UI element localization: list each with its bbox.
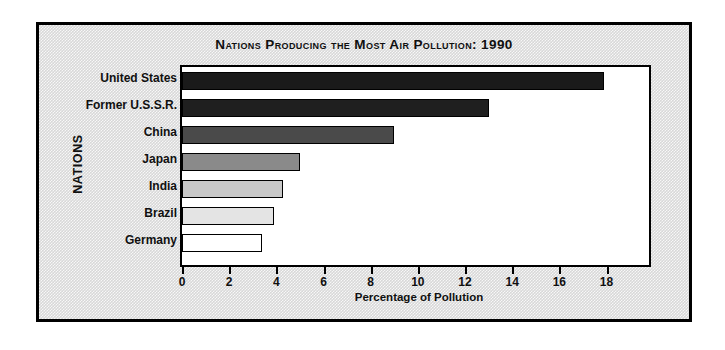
x-axis-tick-label: 2 <box>214 275 244 289</box>
x-axis-tick-label: 18 <box>592 275 622 289</box>
x-axis-tick-label: 16 <box>544 275 574 289</box>
x-axis: 024681012141618 <box>180 267 651 291</box>
bar-row <box>182 94 649 121</box>
bar-row <box>182 67 649 94</box>
x-axis-tick-label: 10 <box>403 275 433 289</box>
chart-title: Nations Producing the Most Air Pollution… <box>39 37 689 52</box>
x-axis-tick-mark <box>276 267 278 274</box>
bar <box>182 153 300 171</box>
x-axis-tick-mark <box>559 267 561 274</box>
category-label: Germany <box>65 227 177 254</box>
bar-row <box>182 229 649 256</box>
chart-figure: Nations Producing the Most Air Pollution… <box>36 22 692 322</box>
x-axis-tick-label: 12 <box>450 275 480 289</box>
x-axis-tick-mark <box>229 267 231 274</box>
category-label: Former U.S.S.R. <box>65 92 177 119</box>
x-axis-tick-label: 6 <box>309 275 339 289</box>
bar-row <box>182 175 649 202</box>
x-axis-tick-mark <box>607 267 609 274</box>
bar-row <box>182 121 649 148</box>
bar <box>182 207 274 225</box>
category-label: Brazil <box>65 200 177 227</box>
x-axis-tick-mark <box>465 267 467 274</box>
x-axis-tick-label: 8 <box>356 275 386 289</box>
category-label: China <box>65 119 177 146</box>
bar <box>182 72 604 90</box>
bar <box>182 99 489 117</box>
x-axis-tick-mark <box>371 267 373 274</box>
x-axis-title: Percentage of Pollution <box>179 291 659 303</box>
x-axis-tick-mark <box>418 267 420 274</box>
bar-row <box>182 202 649 229</box>
x-axis-tick-label: 4 <box>261 275 291 289</box>
bar <box>182 126 394 144</box>
bar <box>182 180 283 198</box>
x-axis-tick-mark <box>324 267 326 274</box>
category-label: Japan <box>65 146 177 173</box>
x-axis-tick-mark <box>512 267 514 274</box>
y-axis-category-labels: United States Former U.S.S.R. China Japa… <box>65 65 177 254</box>
bar-row <box>182 148 649 175</box>
plot-area <box>180 65 651 267</box>
x-axis-tick-mark <box>182 267 184 274</box>
bar <box>182 234 262 252</box>
bar-series <box>182 67 649 265</box>
x-axis-tick-label: 0 <box>167 275 197 289</box>
x-axis-tick-label: 14 <box>497 275 527 289</box>
category-label: United States <box>65 65 177 92</box>
category-label: India <box>65 173 177 200</box>
